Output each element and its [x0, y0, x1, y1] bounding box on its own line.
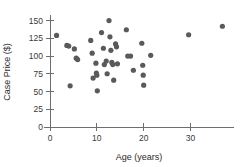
data-point: [141, 83, 146, 88]
data-point: [54, 33, 59, 38]
data-point: [66, 44, 71, 49]
data-point: [104, 58, 109, 63]
data-point: [186, 32, 191, 37]
data-point: [90, 51, 95, 56]
x-tick-label: 0: [48, 133, 53, 143]
data-point: [141, 73, 146, 78]
data-point: [94, 73, 99, 78]
scatter-plot-figure: 0255075100125150 0102030 Age (years) Cas…: [0, 0, 244, 167]
x-tick-label: 30: [186, 133, 196, 143]
data-point: [88, 38, 93, 43]
data-point: [68, 83, 73, 88]
data-point: [124, 27, 129, 32]
x-tick-label: 10: [92, 133, 102, 143]
data-point: [148, 53, 153, 58]
data-points-layer: [54, 18, 225, 93]
data-point: [99, 30, 104, 35]
data-point: [115, 61, 120, 66]
plot-canvas: 0255075100125150 0102030 Age (years) Cas…: [0, 0, 244, 167]
data-point: [75, 57, 80, 62]
y-tick-label: 100: [29, 51, 43, 61]
y-tick-label: 75: [34, 69, 44, 79]
y-tick-label: 50: [34, 87, 44, 97]
y-tick-label: 0: [38, 122, 43, 132]
data-point: [128, 53, 133, 58]
x-axis-title: Age (years): [116, 152, 163, 162]
data-point: [106, 18, 111, 23]
y-axis: 0255075100125150: [29, 15, 54, 132]
x-axis: 0102030: [44, 123, 234, 143]
y-tick-label: 25: [34, 104, 44, 114]
data-point: [110, 62, 115, 67]
data-point: [220, 24, 225, 29]
data-point: [108, 48, 113, 53]
data-point: [111, 78, 116, 83]
data-point: [131, 68, 136, 73]
y-tick-label: 150: [29, 16, 43, 26]
data-point: [72, 46, 77, 51]
y-axis-title: Case Price ($): [2, 43, 12, 101]
data-point: [95, 88, 100, 93]
data-point: [114, 44, 119, 49]
data-point: [140, 63, 145, 68]
data-point: [93, 61, 98, 66]
data-point: [105, 71, 110, 76]
x-tick-label: 20: [139, 133, 149, 143]
data-point: [101, 46, 106, 51]
data-point: [107, 34, 112, 39]
data-point: [139, 41, 144, 46]
y-tick-label: 125: [29, 33, 43, 43]
